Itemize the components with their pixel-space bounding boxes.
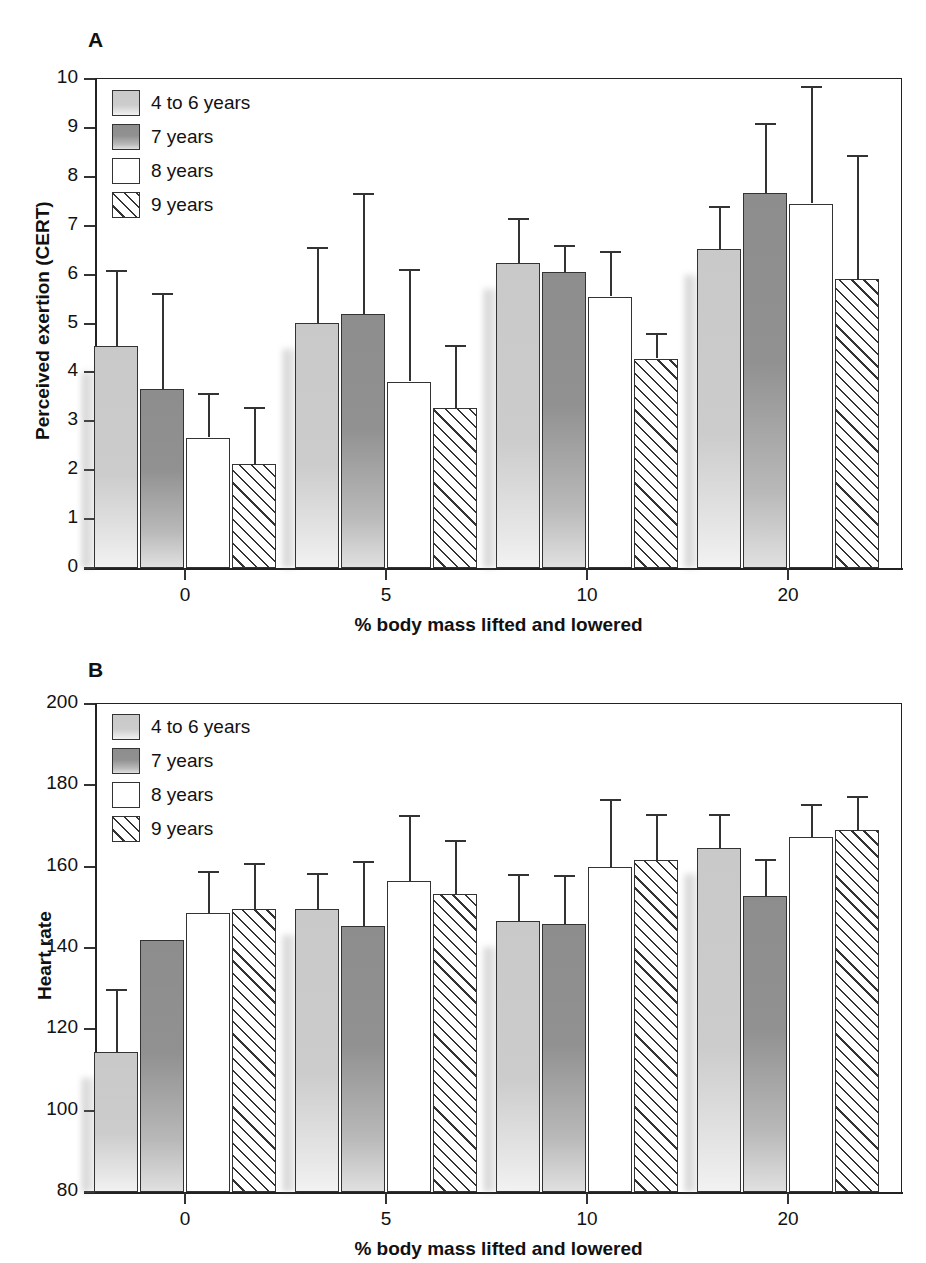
error-cap-B-2-3 — [646, 814, 667, 816]
y-tick-label-A-2: 2 — [18, 457, 78, 479]
error-cap-A-3-3 — [847, 155, 868, 157]
error-bar-A-0-2 — [208, 393, 210, 437]
x-tick-label-B-2: 10 — [547, 1208, 627, 1230]
error-cap-A-1-2 — [399, 269, 420, 271]
error-bar-B-2-1 — [564, 875, 566, 924]
y-tick-label-B-1: 100 — [18, 1098, 78, 1120]
x-tick-B-3 — [787, 1193, 789, 1204]
legend-item-A-1: 7 years — [112, 120, 250, 154]
error-cap-B-2-1 — [554, 875, 575, 877]
x-tick-A-0 — [184, 569, 186, 580]
y-tick-label-A-0: 0 — [18, 555, 78, 577]
error-bar-B-2-2 — [610, 799, 612, 867]
legend-swatch-icon-1 — [112, 748, 140, 774]
error-cap-B-1-0 — [307, 873, 328, 875]
error-cap-A-0-2 — [198, 393, 219, 395]
error-bar-A-3-3 — [857, 155, 859, 279]
legend-label-2: 8 years — [151, 784, 213, 806]
error-bar-A-1-3 — [455, 345, 457, 408]
x-tick-A-3 — [787, 569, 789, 580]
x-tick-label-A-2: 10 — [547, 584, 627, 606]
legend-item-B-2: 8 years — [112, 778, 250, 812]
bar-B-1-1 — [341, 926, 385, 1192]
error-bar-A-1-0 — [317, 247, 319, 323]
y-tick-B-4 — [84, 866, 95, 868]
error-cap-B-2-0 — [508, 874, 529, 876]
error-cap-A-2-1 — [554, 245, 575, 247]
y-tick-B-3 — [84, 947, 95, 949]
error-bar-A-0-3 — [254, 407, 256, 464]
legend-swatch-icon-3 — [112, 192, 140, 218]
error-bar-A-2-1 — [564, 245, 566, 272]
error-bar-B-1-0 — [317, 873, 319, 910]
bar-B-2-2 — [588, 867, 632, 1192]
bar-B-1-0 — [295, 909, 339, 1192]
error-bar-A-2-3 — [656, 333, 658, 358]
bar-A-0-0 — [94, 346, 138, 568]
error-bar-B-3-2 — [811, 804, 813, 837]
y-tick-label-B-2: 120 — [18, 1016, 78, 1038]
legend-swatch-icon-0 — [112, 90, 140, 116]
bar-A-1-2 — [387, 382, 431, 568]
error-bar-B-0-2 — [208, 871, 210, 914]
x-tick-A-1 — [385, 569, 387, 580]
x-tick-label-B-1: 5 — [346, 1208, 426, 1230]
error-cap-B-2-2 — [600, 799, 621, 801]
y-tick-B-5 — [84, 784, 95, 786]
bar-A-2-1 — [542, 272, 586, 568]
bar-B-0-0 — [94, 1052, 138, 1192]
bar-A-2-3 — [634, 359, 678, 568]
y-tick-label-A-8: 8 — [18, 164, 78, 186]
x-tick-B-0 — [184, 1193, 186, 1204]
error-bar-B-1-2 — [409, 815, 411, 881]
error-bar-B-0-3 — [254, 863, 256, 910]
y-tick-A-9 — [84, 127, 95, 129]
x-tick-label-A-3: 20 — [748, 584, 828, 606]
bar-B-0-3 — [232, 909, 276, 1192]
legend-label-1: 7 years — [151, 126, 213, 148]
error-cap-B-0-0 — [106, 989, 127, 991]
y-tick-label-B-4: 160 — [18, 854, 78, 876]
error-cap-B-3-0 — [709, 814, 730, 816]
error-cap-A-3-2 — [801, 86, 822, 88]
error-cap-A-3-0 — [709, 206, 730, 208]
error-bar-A-2-0 — [518, 218, 520, 263]
legend-item-B-3: 9 years — [112, 812, 250, 846]
bar-B-1-3 — [433, 894, 477, 1192]
panel-a: A 012345678910051020% body mass lifted a… — [0, 0, 926, 640]
error-bar-A-1-1 — [363, 193, 365, 314]
error-bar-A-0-0 — [116, 270, 118, 347]
bar-A-0-3 — [232, 464, 276, 568]
error-cap-A-0-3 — [244, 407, 265, 409]
y-tick-label-A-9: 9 — [18, 115, 78, 137]
y-tick-A-6 — [84, 274, 95, 276]
x-axis-title-A: % body mass lifted and lowered — [96, 614, 901, 636]
bar-B-2-1 — [542, 924, 586, 1192]
x-tick-B-2 — [586, 1193, 588, 1204]
legend-item-A-3: 9 years — [112, 188, 250, 222]
error-bar-B-2-3 — [656, 814, 658, 860]
x-axis-line-B — [84, 1192, 903, 1194]
legend-swatch-icon-0 — [112, 714, 140, 740]
bar-A-1-3 — [433, 408, 477, 568]
bar-B-3-0 — [697, 848, 741, 1192]
error-bar-A-3-1 — [765, 123, 767, 193]
error-bar-B-0-0 — [116, 989, 118, 1052]
bar-B-1-2 — [387, 881, 431, 1192]
error-cap-B-3-1 — [755, 859, 776, 861]
x-tick-label-B-3: 20 — [748, 1208, 828, 1230]
error-bar-A-0-1 — [162, 293, 164, 389]
error-cap-A-0-1 — [152, 293, 173, 295]
error-bar-A-2-2 — [610, 251, 612, 296]
bar-A-3-3 — [835, 279, 879, 568]
bar-B-3-1 — [743, 896, 787, 1192]
error-bar-A-1-2 — [409, 269, 411, 381]
x-tick-label-B-0: 0 — [145, 1208, 225, 1230]
bar-A-2-0 — [496, 263, 540, 568]
legend-swatch-icon-1 — [112, 124, 140, 150]
legend-label-3: 9 years — [151, 818, 213, 840]
error-cap-B-0-3 — [244, 863, 265, 865]
error-cap-A-1-1 — [353, 193, 374, 195]
legend-swatch-icon-3 — [112, 816, 140, 842]
bar-B-0-2 — [186, 913, 230, 1192]
